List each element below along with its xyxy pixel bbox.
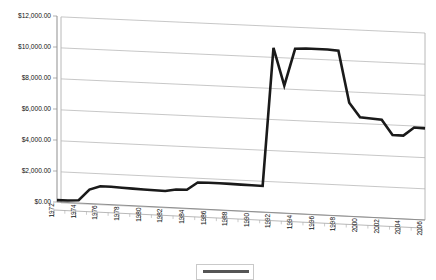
x-axis-label: 1988 — [221, 211, 228, 226]
chart-legend — [196, 264, 254, 280]
y-axis-label: $6,000.00 — [22, 105, 52, 112]
gridline — [61, 48, 425, 64]
x-axis-label: 2004 — [394, 220, 401, 235]
gridline — [61, 141, 425, 158]
x-axis-label: 1992 — [264, 213, 271, 228]
x-axis-label: 1980 — [135, 207, 142, 222]
x-axis-label: 2002 — [373, 219, 380, 234]
x-axis-label: 1984 — [178, 209, 185, 224]
x-axis-label: 1994 — [286, 214, 293, 229]
x-axis-label: 1982 — [156, 208, 163, 223]
x-axis-label: 1990 — [243, 212, 250, 227]
x-axis-label: 1986 — [200, 210, 207, 225]
gridlines: $0.00$2,000.00$4,000.00$6,000.00$8,000.0… — [18, 12, 425, 220]
x-axis-label: 1976 — [91, 205, 98, 220]
x-axis-label: 1972 — [48, 203, 55, 218]
y-axis-label: $2,000.00 — [22, 167, 52, 174]
x-axis-label: 2000 — [351, 218, 358, 233]
gridline — [61, 79, 425, 95]
y-axis-label: $12,000.00 — [18, 12, 51, 19]
x-axis-label: 1996 — [308, 216, 315, 231]
x-axis-label: 2006 — [416, 221, 423, 236]
y-axis-label: $10,000.00 — [18, 43, 51, 50]
x-axis-label: 1998 — [329, 217, 336, 232]
y-axis-label: $8,000.00 — [22, 74, 52, 81]
gridline — [61, 17, 425, 33]
x-axis-label: 1974 — [70, 204, 77, 219]
x-axis-label: 1978 — [113, 206, 120, 221]
legend-series-swatch — [203, 270, 249, 273]
y-axis-label: $4,000.00 — [22, 136, 52, 143]
